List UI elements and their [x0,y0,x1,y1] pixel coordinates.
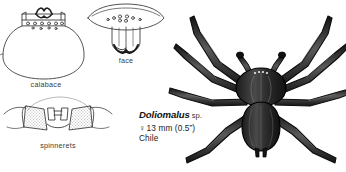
spinnerets-diagram [4,96,112,142]
species-size-value: 13 mm (0.5”) [147,123,196,133]
species-size-line: ♀13 mm (0.5”) [139,123,202,133]
species-label: Doliomalussp. ♀13 mm (0.5”) Chile [139,103,202,143]
species-qualifier: sp. [192,111,202,120]
calabace-diagram [0,4,92,80]
species-name-line: Doliomalussp. [139,103,202,123]
face-diagram [84,2,168,56]
face-caption: face [104,56,148,65]
spinnerets-caption: spinnerets [26,141,90,150]
calabace-caption: calabace [16,80,76,89]
species-genus: Doliomalus [139,109,190,120]
spider-habitus-illustration [176,0,346,172]
female-symbol-icon: ♀ [139,123,146,133]
species-country: Chile [139,133,202,143]
